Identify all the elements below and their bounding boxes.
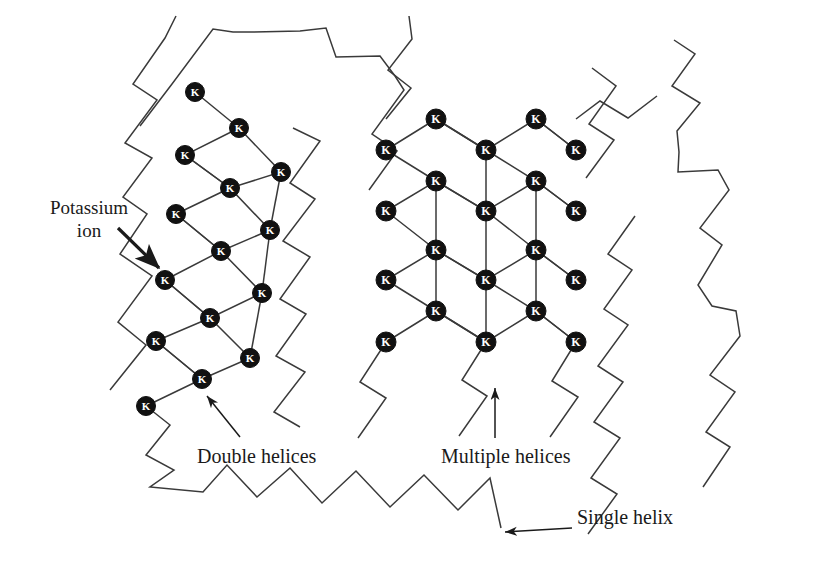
single-helix-label: Single helix (577, 505, 673, 529)
potassium-ion-glyph: K (571, 204, 581, 218)
single-helix-chain-4 (386, 16, 412, 119)
single-helix-chain-5 (586, 68, 616, 178)
helix-diagram: KKKKKKKKKKKKKKKKKKKKKKKKKKKKKKKKKKK (0, 0, 817, 574)
potassium-ion-label: Potassium ion (30, 196, 148, 242)
potassium-ion-glyph: K (235, 122, 244, 134)
multiple-helices-label: Multiple helices (441, 444, 570, 468)
potassium-ion-glyph: K (206, 312, 215, 324)
single-helix-chain-9 (358, 342, 386, 438)
potassium-ion-glyph: K (142, 400, 151, 412)
single-helix-chain-7 (588, 216, 635, 534)
single-helix-chain-11 (550, 342, 578, 437)
figure-canvas: KKKKKKKKKKKKKKKKKKKKKKKKKKKKKKKKKKK Pota… (0, 0, 817, 574)
potassium-ion-glyph: K (531, 174, 541, 188)
potassium-ion-glyph: K (198, 373, 207, 385)
potassium-ion-glyph: K (481, 143, 491, 157)
potassium-ion-glyph: K (431, 112, 441, 126)
potassium-ion-glyph: K (381, 273, 391, 287)
single-helix-chain-6 (672, 40, 740, 487)
potassium-ion-glyph: K (381, 335, 391, 349)
double-helices-label: Double helices (197, 444, 316, 468)
single-helix-chain-10 (459, 342, 487, 436)
potassium-ion-glyph: K (258, 287, 267, 299)
single-helix-arrow (505, 528, 572, 532)
potassium-ion-glyph: K (161, 274, 170, 286)
potassium-ion-glyph: K (381, 204, 391, 218)
potassium-ion-glyph: K (381, 143, 391, 157)
potassium-ion-glyph: K (481, 273, 491, 287)
potassium-ion-label-line1: Potassium (30, 196, 148, 219)
potassium-ion-glyph: K (152, 335, 161, 347)
potassium-ion-glyph: K (172, 208, 181, 220)
annotation-arrows (118, 228, 572, 532)
potassium-ion-glyph: K (571, 273, 581, 287)
potassium-ion-glyph: K (571, 143, 581, 157)
potassium-ion-nodes: KKKKKKKKKKKKKKKKKKKKKKKKKKKKKKKKKKK (137, 83, 587, 416)
potassium-ion-glyph: K (191, 86, 200, 98)
potassium-ion-glyph: K (431, 243, 441, 257)
potassium-ion-glyph: K (431, 174, 441, 188)
potassium-ion-glyph: K (226, 182, 235, 194)
potassium-ion-glyph: K (266, 224, 275, 236)
potassium-ion-glyph: K (531, 243, 541, 257)
potassium-ion-glyph: K (531, 304, 541, 318)
potassium-ion-glyph: K (181, 149, 190, 161)
potassium-ion-glyph: K (217, 245, 226, 257)
potassium-ion-glyph: K (277, 166, 286, 178)
potassium-ion-glyph: K (571, 335, 581, 349)
double-helices-arrow (207, 396, 240, 437)
potassium-ion-glyph: K (481, 204, 491, 218)
potassium-ion-glyph: K (481, 335, 491, 349)
single-helix-chain-12 (576, 96, 657, 119)
potassium-ion-glyph: K (531, 112, 541, 126)
potassium-ion-label-line2: ion (30, 219, 148, 242)
potassium-ion-glyph: K (246, 352, 255, 364)
potassium-ion-glyph: K (431, 304, 441, 318)
single-helix-chain-2 (140, 28, 404, 190)
